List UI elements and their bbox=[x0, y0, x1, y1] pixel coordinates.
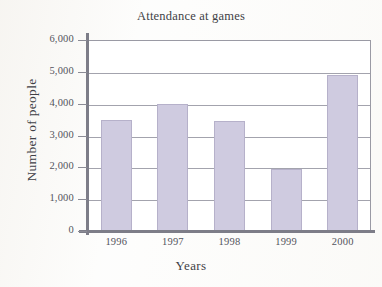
y-axis-tick-label: 4,000 bbox=[32, 97, 74, 108]
x-axis-line bbox=[79, 230, 375, 233]
gridline bbox=[88, 73, 370, 74]
y-axis-tick-label: 0 bbox=[32, 224, 74, 235]
bar-2000 bbox=[327, 75, 358, 231]
x-axis-title: Years bbox=[0, 258, 382, 274]
y-axis-tick-label: 1,000 bbox=[32, 192, 74, 203]
y-axis-tick-mark bbox=[78, 40, 87, 41]
bar-1996 bbox=[101, 120, 132, 231]
bar-1999 bbox=[271, 169, 302, 231]
y-axis-tick-mark bbox=[78, 199, 87, 200]
y-axis-tick-label: 6,000 bbox=[32, 33, 74, 44]
bar-1997 bbox=[157, 104, 188, 231]
y-axis-tick-mark bbox=[78, 104, 87, 105]
y-axis-tick-mark bbox=[78, 136, 87, 137]
y-axis-tick-label: 2,000 bbox=[32, 160, 74, 171]
bar-chart-figure: Attendance at games Number of people 01,… bbox=[0, 0, 382, 287]
x-axis-tick-label-1997: 1997 bbox=[148, 236, 198, 247]
y-axis-tick-mark bbox=[78, 231, 87, 232]
x-axis-tick-label-1999: 1999 bbox=[261, 236, 311, 247]
x-axis-tick-label-1998: 1998 bbox=[205, 236, 255, 247]
y-axis-tick-mark bbox=[78, 72, 87, 73]
y-axis-tick-labels: 01,0002,0003,0004,0005,0006,000 bbox=[30, 0, 74, 287]
x-axis-tick-label-1996: 1996 bbox=[91, 236, 141, 247]
bar-1998 bbox=[214, 121, 245, 231]
plot-area bbox=[88, 40, 371, 231]
y-axis-tick-label: 3,000 bbox=[32, 129, 74, 140]
y-axis-tick-mark bbox=[78, 167, 87, 168]
x-axis-tick-label-2000: 2000 bbox=[318, 236, 368, 247]
y-axis-line bbox=[86, 33, 89, 235]
y-axis-tick-label: 5,000 bbox=[32, 65, 74, 76]
